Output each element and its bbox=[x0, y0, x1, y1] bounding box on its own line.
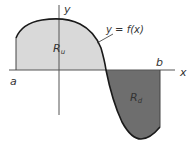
b-bound-label: b bbox=[156, 56, 163, 69]
upper-region-label-sub: u bbox=[61, 48, 66, 56]
x-axis-label: x bbox=[179, 66, 187, 79]
y-axis-label: y bbox=[63, 3, 71, 16]
upper-region-label-main: R bbox=[53, 42, 61, 55]
curve-label: y = f(x) bbox=[105, 24, 144, 35]
area-diagram: y x a b y = f(x) Ru Rd bbox=[0, 0, 195, 148]
a-bound-label: a bbox=[10, 75, 17, 88]
lower-region-label-main: R bbox=[130, 91, 138, 104]
curve-label-leader bbox=[97, 34, 113, 43]
upper-region-fill bbox=[16, 19, 106, 70]
lower-region-fill bbox=[106, 70, 160, 139]
lower-region-label-sub: d bbox=[138, 97, 143, 105]
